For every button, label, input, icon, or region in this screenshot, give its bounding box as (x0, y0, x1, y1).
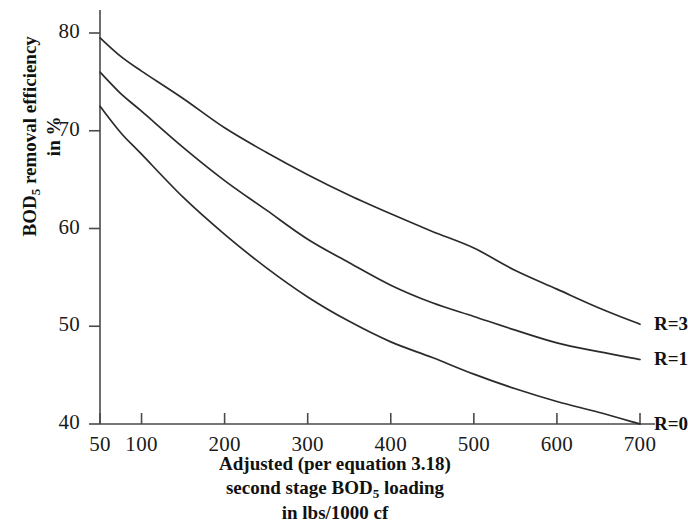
curve-r-1 (100, 72, 640, 359)
series-label-r-0: R=0 (654, 413, 688, 435)
data-curves (100, 38, 640, 424)
x-axis-title-line-3: in lbs/1000 cf (0, 501, 670, 525)
x-axis-title-line-2: second stage BOD5 loading (0, 476, 670, 500)
y-axis-title-line-1: BOD5 removal efficiency (18, 0, 42, 286)
x-axis-title-line-1: Adjusted (per equation 3.18) (0, 452, 670, 476)
x-axis-title-text-pre: second stage BOD (226, 477, 373, 498)
y-axis-title-text-post: removal efficiency (19, 36, 40, 189)
y-axis-title-subscript: 5 (28, 189, 43, 196)
y-axis-title-text-pre: BOD (19, 195, 40, 236)
axes (89, 10, 655, 424)
y-axis-title: BOD5 removal efficiency in % (18, 0, 67, 286)
series-label-r-3: R=3 (654, 313, 688, 335)
curve-r-0 (100, 106, 640, 424)
x-axis-title-text-post: loading (379, 477, 444, 498)
series-label-r-1: R=1 (654, 348, 688, 370)
x-axis-title: Adjusted (per equation 3.18) second stag… (0, 452, 670, 525)
x-axis-title-subscript: 5 (373, 486, 380, 501)
curve-r-3 (100, 38, 640, 324)
y-axis-title-line-2: in % (42, 0, 66, 286)
y-tick-label: 50 (32, 312, 80, 337)
